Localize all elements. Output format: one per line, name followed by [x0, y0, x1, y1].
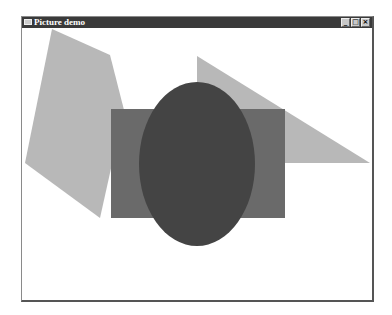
window-title: Picture demo: [34, 17, 85, 28]
picture-demo-window: Picture demo _ □ ×: [21, 16, 374, 302]
minimize-button[interactable]: _: [341, 18, 350, 27]
maximize-button[interactable]: □: [351, 18, 360, 27]
close-button[interactable]: ×: [361, 18, 370, 27]
title-bar[interactable]: Picture demo _ □ ×: [22, 17, 372, 28]
window-icon[interactable]: [24, 19, 32, 25]
window-controls: _ □ ×: [341, 18, 370, 27]
